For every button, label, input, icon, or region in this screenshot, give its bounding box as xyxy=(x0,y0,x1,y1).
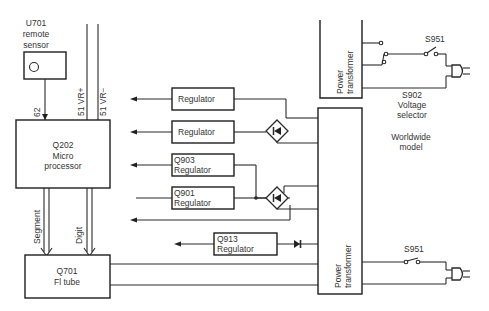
signal-62-label: 62 xyxy=(32,107,42,117)
svg-text:Q913: Q913 xyxy=(217,234,238,244)
diode-icon xyxy=(294,240,301,248)
switch-s951-bottom-label: S951 xyxy=(404,244,424,254)
microprocessor-block: Q202 Micro processor xyxy=(16,120,110,188)
regulator-2: Regulator xyxy=(172,121,266,143)
svg-text:Power: Power xyxy=(333,264,343,288)
fl-tube-label-1: Q701 xyxy=(57,266,78,276)
plug-icon xyxy=(452,65,470,77)
svg-text:transformer: transformer xyxy=(345,50,355,94)
fl-tube-block: Q701 Fl tube xyxy=(25,255,318,298)
segment-bus: Segment xyxy=(32,188,52,256)
selector-label-3: selector xyxy=(397,110,427,120)
svg-text:transformer: transformer xyxy=(343,244,353,288)
digit-bus: Digit xyxy=(74,188,95,256)
svg-text:Regulator: Regulator xyxy=(217,244,254,254)
sensor-label-2: remote xyxy=(23,29,50,39)
svg-text:Regulator: Regulator xyxy=(174,165,211,175)
bridge-rectifier-2 xyxy=(256,186,318,220)
worldwide-label-2: model xyxy=(399,142,422,152)
micro-label-2: Micro xyxy=(53,151,74,161)
svg-text:Q901: Q901 xyxy=(174,188,195,198)
worldwide-label-1: Worldwide xyxy=(391,132,431,142)
rail-minus-label: 51 VR− xyxy=(98,87,108,116)
svg-text:Regulator: Regulator xyxy=(178,127,215,137)
regulator-q913: Q913 Regulator xyxy=(214,233,318,255)
remote-sensor-block: U701 remote sensor 62 xyxy=(23,18,66,120)
regulator-1: Regulator xyxy=(172,88,286,118)
svg-text:Regulator: Regulator xyxy=(178,94,215,104)
fl-tube-label-2: Fl tube xyxy=(54,277,80,287)
bridge-rectifier-1 xyxy=(266,118,318,143)
micro-label-3: processor xyxy=(44,161,81,171)
plug-icon-bottom xyxy=(452,268,470,280)
digit-label: Digit xyxy=(74,226,84,244)
sensor-label-3: sensor xyxy=(23,40,49,50)
block-diagram: U701 remote sensor 62 51 VR+ 51 VR− Q202… xyxy=(0,0,489,311)
selector-label-2: Voltage xyxy=(398,100,427,110)
power-rails: 51 VR+ 51 VR− xyxy=(76,24,108,120)
segment-label: Segment xyxy=(32,209,42,244)
micro-label-1: Q202 xyxy=(53,140,74,150)
sensor-label-1: U701 xyxy=(26,18,47,28)
rail-plus-label: 51 VR+ xyxy=(76,87,86,116)
svg-text:Q903: Q903 xyxy=(174,155,195,165)
svg-text:Power: Power xyxy=(335,70,345,94)
regulator-q901: Q901 Regulator xyxy=(172,187,266,209)
selector-label-1: S902 xyxy=(402,90,422,100)
switch-s951-top-label: S951 xyxy=(425,34,445,44)
svg-text:Regulator: Regulator xyxy=(174,198,211,208)
